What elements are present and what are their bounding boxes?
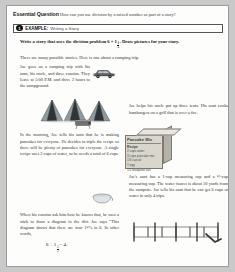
fraction-denominator: 2: [117, 46, 119, 49]
box-top-panel: [136, 128, 181, 135]
car-illustration: [91, 68, 117, 79]
measuring-cup-illustration: [89, 192, 115, 206]
essential-question-label: Essential Question: [13, 11, 59, 17]
division-equation: 6 ÷ 112= 4.: [46, 242, 119, 253]
problem-directive: Write a story that uses the division pro…: [20, 39, 223, 50]
example-header-bar: 1 EXAMPLE: Writing a Story: [13, 24, 223, 33]
box-recipe-item: 1/2 teaspoon salt: [127, 168, 161, 173]
grill-illustration: [73, 117, 93, 130]
story-paragraph-5: When his cousins ask him how he knows th…: [20, 212, 119, 237]
example-subtitle: Writing a Story: [50, 26, 79, 31]
equation-fraction-denominator: 2: [57, 250, 59, 253]
story-paragraph-4: Joe's aunt has a 1-cup measuring cup and…: [129, 174, 228, 199]
example-number-badge: 1: [16, 25, 23, 32]
essential-question-block: Essential Question How can you use divis…: [13, 11, 223, 19]
equation-lhs: 6 ÷ 1: [46, 242, 56, 247]
essential-question-text: How can you use division by a mixed numb…: [60, 12, 176, 17]
story-paragraph-3: In the morning, Joe tells his aunt that …: [20, 132, 119, 157]
number-line-diagram-illustration: [131, 214, 227, 252]
lede-text: There are many possible stories. Here is…: [20, 55, 223, 60]
directive-text-before: Write a story that uses the division pro…: [20, 39, 117, 44]
directive-text-after: . Draw pictures for your story.: [120, 39, 180, 44]
story-area: Joe goes on a camping trip with his aunt…: [13, 64, 223, 260]
pancake-mix-box-illustration: Pancake Mix Recipe 2 cups water 3 cups p…: [125, 130, 172, 169]
story-paragraph-2: Joe helps his uncle put up three tents. …: [129, 103, 228, 116]
left-column-bottom: When his cousins ask him how he knows th…: [20, 212, 119, 254]
right-column-top: Joe helps his uncle put up three tents. …: [129, 103, 228, 116]
example-label: EXAMPLE:: [25, 26, 48, 31]
box-label-group: Pancake Mix Recipe 2 cups water 3 cups p…: [127, 137, 161, 172]
right-column-mid: Joe's aunt has a 1-cup measuring cup and…: [129, 174, 228, 199]
box-title: Pancake Mix: [127, 137, 161, 144]
left-column-mid: In the morning, Joe tells his aunt that …: [20, 132, 119, 157]
story-paragraph-1: Joe goes on a camping trip with his aunt…: [20, 64, 90, 89]
textbook-page: Essential Question How can you use divis…: [6, 5, 229, 267]
equation-rhs: = 4.: [59, 242, 67, 247]
